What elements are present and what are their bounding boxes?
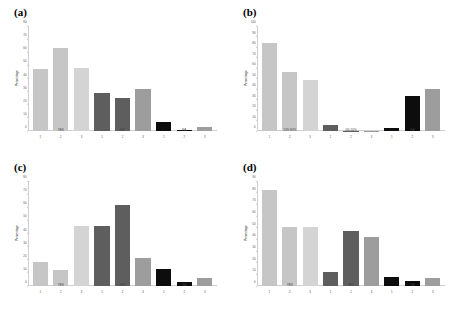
y-axis-b	[257, 26, 258, 131]
bar-slot	[279, 26, 299, 131]
bar[interactable]	[115, 205, 130, 286]
x-ticks-c: 123123123	[30, 290, 215, 298]
y-tick-mark	[256, 274, 257, 275]
bar[interactable]	[53, 48, 68, 131]
bar-slot	[423, 181, 443, 286]
bar[interactable]	[74, 68, 89, 131]
x-tick-label: 1	[153, 135, 174, 143]
bar-slot	[382, 181, 402, 286]
panel-c: (c) Percentage 01020304050607080 YESNONA…	[0, 155, 229, 310]
group-label: YES	[259, 283, 320, 290]
y-tick-mark	[27, 78, 28, 79]
bar-slot	[300, 26, 320, 131]
plot-area-b: 0102030405060708090100	[257, 26, 445, 131]
bar-slot	[71, 181, 92, 286]
plot-area-c: 01020304050607080	[28, 181, 217, 286]
x-tick-label: 3	[133, 135, 154, 143]
y-axis-label-d: Percentage	[244, 225, 248, 241]
x-tick-label: 3	[71, 290, 92, 298]
bar-slot	[382, 26, 402, 131]
group-label: NO	[92, 283, 154, 290]
y-tick-mark	[256, 88, 257, 89]
bars-a	[30, 26, 215, 131]
bar[interactable]	[135, 89, 150, 131]
y-tick-label: 0	[254, 125, 257, 129]
bar[interactable]	[282, 227, 297, 287]
y-tick-mark	[27, 193, 28, 194]
x-tick-label: 2	[341, 135, 361, 143]
bar-slot	[423, 26, 443, 131]
bar-slot	[133, 26, 154, 131]
bar-slot	[51, 181, 72, 286]
bar[interactable]	[94, 226, 109, 286]
x-tick-label: 3	[300, 135, 320, 143]
y-tick-mark	[256, 239, 257, 240]
bar-slot	[195, 181, 216, 286]
bar-slot	[153, 26, 174, 131]
y-tick-label: 30	[23, 241, 28, 245]
x-tick-label: 3	[195, 290, 216, 298]
bar-slot	[92, 26, 113, 131]
y-tick-mark	[256, 215, 257, 216]
bar[interactable]	[94, 93, 109, 131]
y-tick-mark	[27, 220, 28, 221]
bar-slot	[279, 181, 299, 286]
bar[interactable]	[262, 190, 277, 286]
bar-slot	[402, 26, 422, 131]
bar[interactable]	[282, 72, 297, 131]
x-tick-label: 1	[30, 135, 51, 143]
y-tick-mark	[256, 250, 257, 251]
x-tick-label: 1	[382, 290, 402, 298]
panel-label-b: (b)	[243, 6, 256, 18]
panel-a: (a) Percentage 01020304050607080 YESNONA…	[0, 0, 229, 155]
group-label: 10% 90%	[259, 128, 320, 135]
bar-slot	[51, 26, 72, 131]
bar-slot	[30, 26, 51, 131]
bar-slot	[320, 26, 340, 131]
plot-area-d: 0102030405060708090	[257, 181, 445, 286]
bar[interactable]	[343, 231, 358, 286]
y-axis-c	[28, 181, 29, 286]
y-tick-label: 80	[23, 175, 28, 179]
group-label: YES	[30, 283, 92, 290]
bar[interactable]	[115, 98, 130, 131]
y-tick-mark	[27, 130, 28, 131]
y-tick-label: 60	[252, 210, 257, 214]
x-tick-label: 3	[361, 290, 381, 298]
bar-slot	[174, 26, 195, 131]
x-tick-label: 2	[279, 135, 299, 143]
y-tick-mark	[256, 25, 257, 26]
bar-slot	[259, 181, 279, 286]
bar-slot	[153, 181, 174, 286]
panel-b: (b) Percentage 0102030405060708090100 10…	[229, 0, 457, 155]
bar[interactable]	[405, 96, 420, 131]
figure-grid: (a) Percentage 01020304050607080 YESNONA…	[0, 0, 457, 310]
y-tick-mark	[27, 207, 28, 208]
bar[interactable]	[425, 89, 440, 131]
y-tick-mark	[256, 227, 257, 228]
y-axis-label-c: Percentage	[15, 225, 19, 241]
bar[interactable]	[364, 237, 379, 286]
bar[interactable]	[262, 43, 277, 131]
y-tick-label: 60	[23, 46, 28, 50]
bar-slot	[341, 26, 361, 131]
x-tick-label: 2	[112, 135, 133, 143]
y-axis-a	[28, 26, 29, 131]
x-tick-label: 2	[341, 290, 361, 298]
bars-c	[30, 181, 215, 286]
bar[interactable]	[135, 258, 150, 286]
x-ticks-a: 123123123	[30, 135, 215, 143]
group-labels-d: YESNONA	[259, 283, 443, 290]
group-label: NA	[382, 283, 443, 290]
y-tick-label: 50	[23, 59, 28, 63]
bar[interactable]	[303, 227, 318, 287]
x-tick-label: 2	[402, 290, 422, 298]
bar-slot	[341, 181, 361, 286]
bar[interactable]	[303, 80, 318, 131]
bar[interactable]	[74, 226, 89, 286]
y-tick-label: 70	[23, 188, 28, 192]
x-tick-label: 3	[195, 135, 216, 143]
bar[interactable]	[33, 69, 48, 131]
bar-slot	[300, 181, 320, 286]
bar-slot	[320, 181, 340, 286]
